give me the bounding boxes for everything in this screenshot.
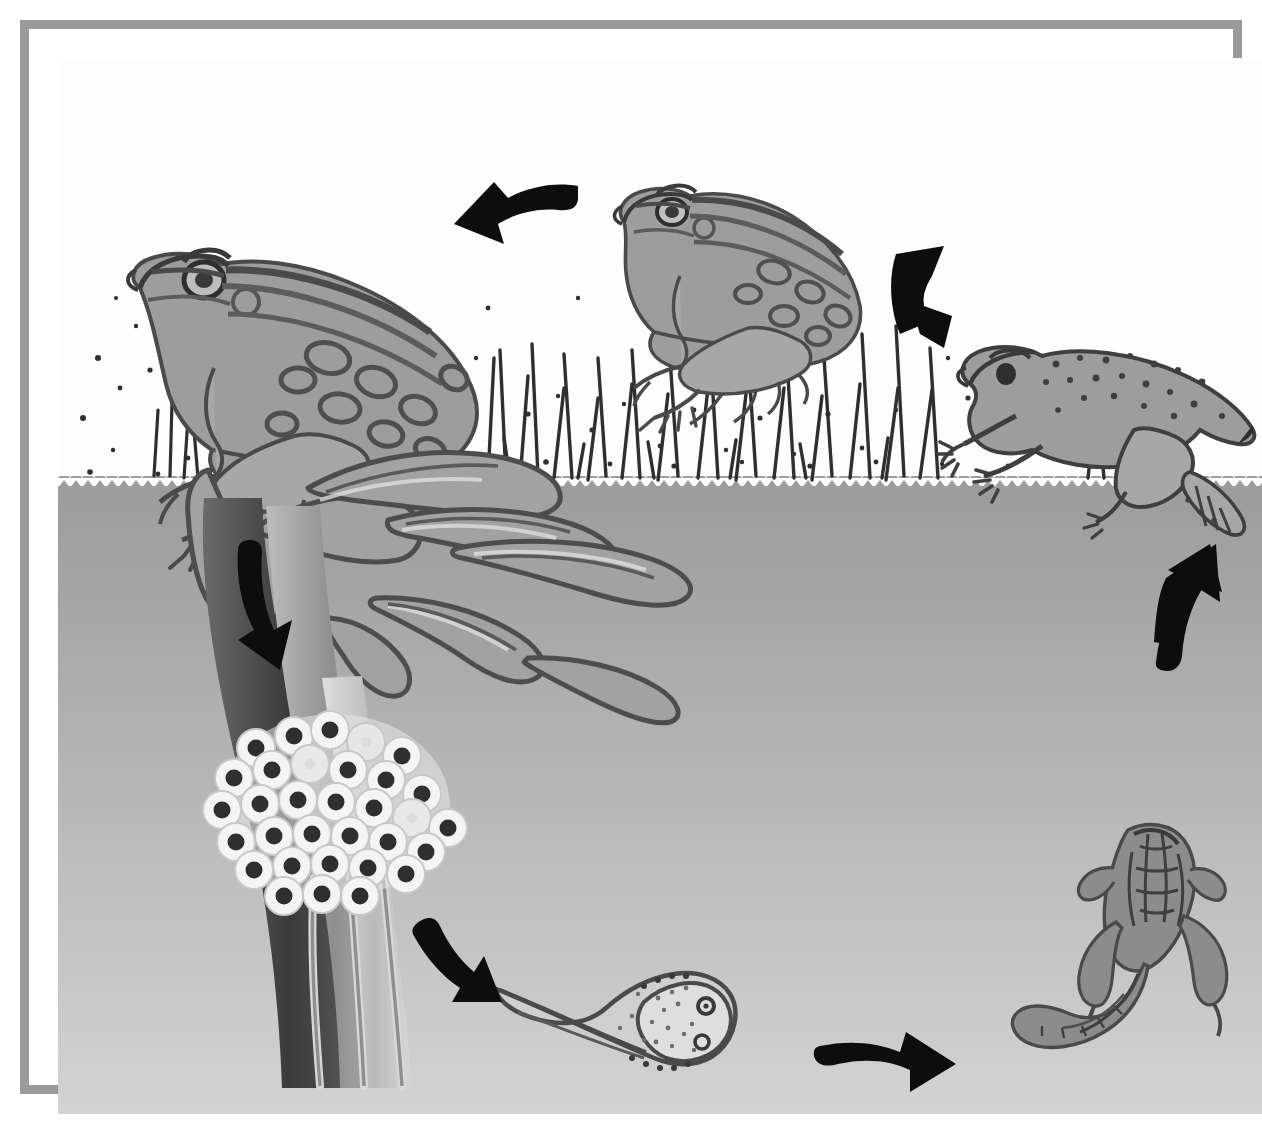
diagram-page: Frog eggs (spawn) Tadpole Tadpole with l…: [0, 0, 1262, 1124]
diagram-canvas: Frog eggs (spawn) Tadpole Tadpole with l…: [58, 58, 1262, 1114]
diagram-frame: Frog eggs (spawn) Tadpole Tadpole with l…: [20, 20, 1242, 1094]
arrow-legs-to-froglet: [58, 58, 1262, 1114]
